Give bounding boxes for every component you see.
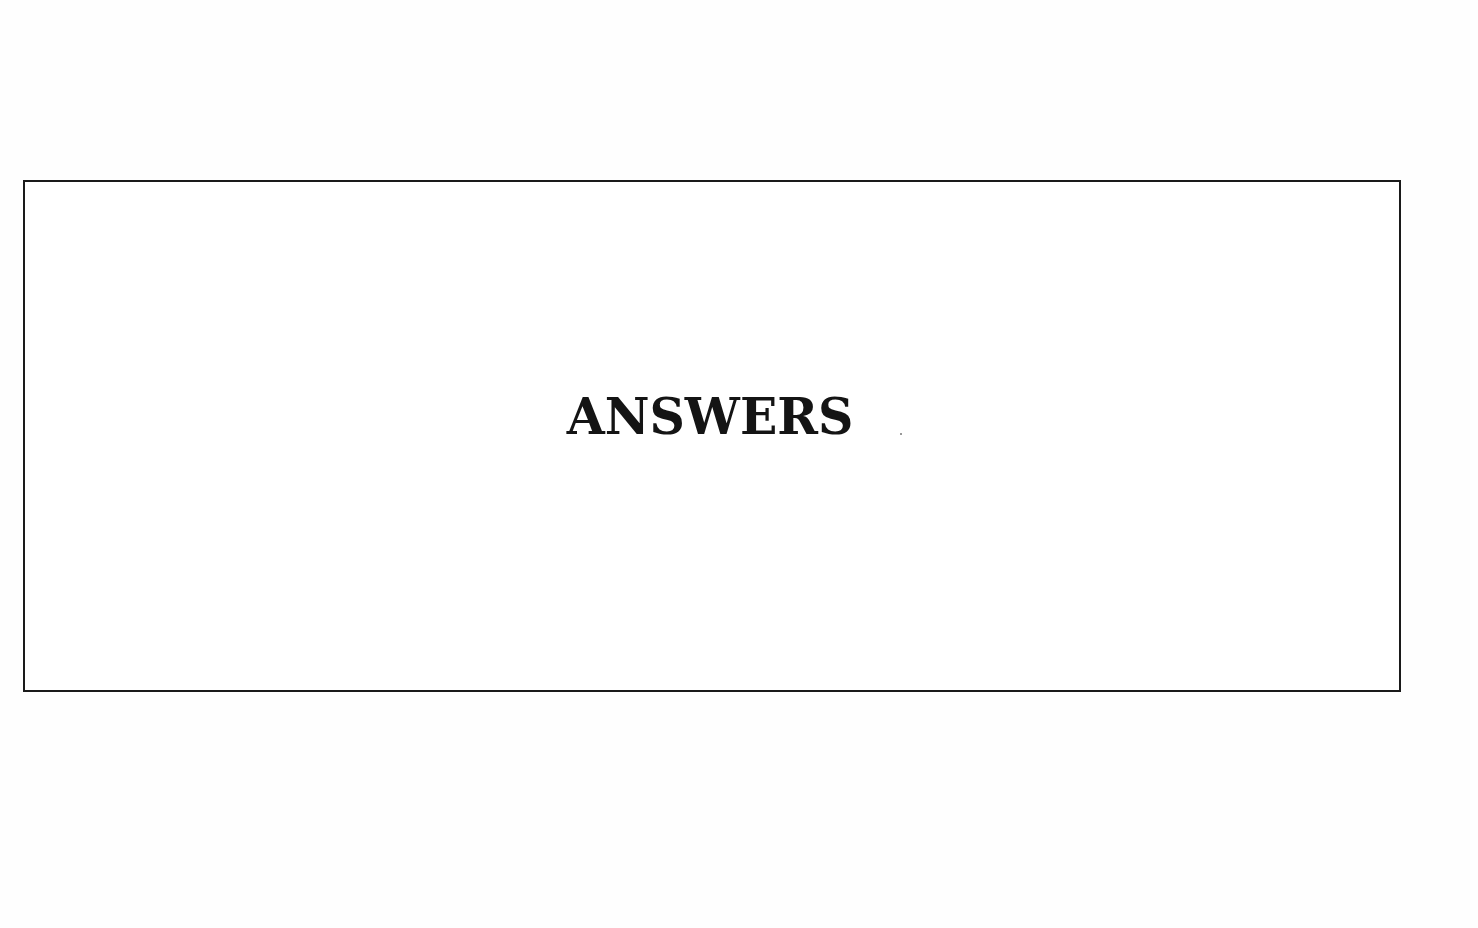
section-heading: ANSWERS bbox=[14, 392, 1406, 442]
document-page: ANSWERS bbox=[0, 0, 1478, 928]
scan-speck bbox=[900, 433, 902, 435]
